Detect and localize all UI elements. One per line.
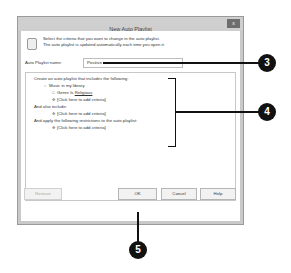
criteria-box: Create an auto playlist that includes th… xyxy=(25,72,236,201)
rule-value[interactable]: Religious xyxy=(75,90,93,95)
add-criteria-3[interactable]: ✥[Click here to add criteria] xyxy=(52,125,106,130)
source-item[interactable]: ♪Music in my library xyxy=(44,83,85,88)
callout-5-line xyxy=(137,212,139,242)
callout-4: 4 xyxy=(258,103,276,121)
checkbox-icon: □ xyxy=(52,90,56,94)
music-note-icon: ♪ xyxy=(44,83,48,87)
header-description: Select the criteria that you want to cha… xyxy=(43,36,165,48)
rule-operator[interactable]: Is xyxy=(70,90,73,95)
section-restrictions-heading: And apply the following restrictions to … xyxy=(34,118,137,123)
playlist-icon xyxy=(27,38,37,50)
add-criteria-icon: ✥ xyxy=(52,111,56,115)
playlist-name-label: Auto Playlist name: xyxy=(25,60,62,65)
remove-button[interactable]: Remove xyxy=(24,188,62,200)
header-line-2: The auto playlist is updated automatical… xyxy=(43,42,165,48)
add-criteria-icon: ✥ xyxy=(52,125,56,129)
ok-button[interactable]: OK xyxy=(118,188,157,200)
help-button[interactable]: Help xyxy=(200,188,236,200)
title-bar[interactable]: New Auto Playlist x xyxy=(18,17,243,31)
close-icon: x xyxy=(232,20,235,26)
section-include-heading: Create an auto playlist that includes th… xyxy=(34,76,128,81)
add-criteria-2[interactable]: ✥[Click here to add criteria] xyxy=(52,111,106,116)
close-button[interactable]: x xyxy=(227,19,240,28)
callout-4-bracket xyxy=(168,78,176,147)
cancel-button[interactable]: Cancel xyxy=(161,188,197,200)
add-criteria-1[interactable]: ✥[Click here to add criteria] xyxy=(52,97,106,102)
add-criteria-icon: ✥ xyxy=(52,97,56,101)
callout-3-line xyxy=(103,62,259,64)
rule-genre[interactable]: □Genre Is Religious xyxy=(52,90,92,95)
section-also-heading: And also include: xyxy=(34,104,67,109)
callout-5: 5 xyxy=(129,241,147,259)
callout-4-line xyxy=(176,111,259,113)
callout-3: 3 xyxy=(258,54,276,72)
